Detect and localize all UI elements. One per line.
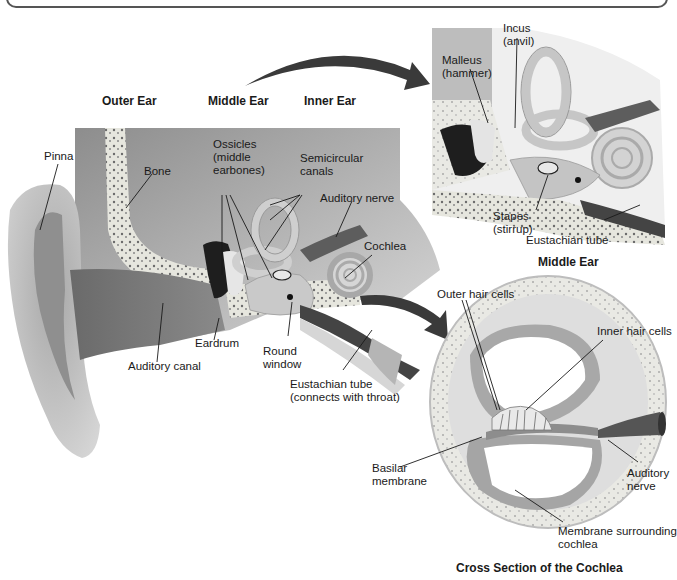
label-membrane-surrounding: Membrane surrounding cochlea — [558, 525, 677, 551]
arrow-to-cochlea — [360, 295, 448, 340]
label-auditory-nerve: Auditory nerve — [320, 192, 394, 205]
label-auditory-canal: Auditory canal — [128, 360, 201, 373]
label-incus: Incus (anvil) — [503, 22, 534, 48]
label-pinna: Pinna — [44, 150, 73, 163]
header-inner-ear: Inner Ear — [304, 94, 356, 108]
label-ossicles: Ossicles (middle earbones) — [213, 138, 265, 177]
label-basilar-membrane: Basilar membrane — [372, 462, 427, 488]
label-malleus: Malleus (hammer) — [442, 54, 492, 80]
label-cochlea: Cochlea — [364, 240, 406, 253]
label-eardrum: Eardrum — [195, 337, 239, 350]
label-inner-hair-cells: Inner hair cells — [597, 325, 672, 338]
label-bone: Bone — [144, 165, 171, 178]
label-outer-hair-cells: Outer hair cells — [437, 288, 514, 301]
label-semicircular-canals: Semicircular canals — [300, 152, 363, 178]
header-middle-ear: Middle Ear — [208, 94, 269, 108]
label-auditory-nerve-cochlea: Auditory nerve — [627, 467, 669, 493]
header-outer-ear: Outer Ear — [102, 94, 157, 108]
caption-middle-ear: Middle Ear — [538, 255, 599, 269]
arrow-to-middle-ear — [245, 56, 430, 90]
label-stapes: Stapes (stirrup) — [493, 210, 533, 236]
main-ear-section — [8, 128, 440, 458]
caption-cochlea-cross-section: Cross Section of the Cochlea — [456, 561, 623, 575]
label-eustachian-tube-inset: Eustachian tube — [526, 234, 608, 247]
label-round-window: Round window — [263, 345, 301, 371]
label-eustachian-tube-main: Eustachian tube (connects with throat) — [290, 378, 400, 404]
